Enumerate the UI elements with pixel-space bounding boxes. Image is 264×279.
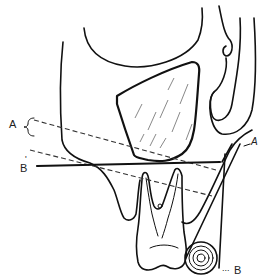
dashed-line-a-lower [30, 150, 212, 196]
right-wavy-contour [219, 6, 232, 56]
tooth-outline [137, 169, 187, 270]
sinus-curve [84, 8, 202, 67]
leader-a-right [244, 144, 250, 146]
bracket-a [24, 118, 34, 136]
label-a-right: A [251, 137, 258, 147]
label-b-prime-mark: ' [25, 155, 27, 164]
bone-right-contour [182, 130, 252, 224]
root-canal-left [146, 178, 158, 236]
label-b-lower: B [234, 265, 241, 276]
crown-inner [150, 245, 178, 248]
label-b-prime: B [20, 163, 27, 174]
right-outer-contour [210, 18, 255, 134]
cone-circles [185, 242, 217, 274]
hatching [135, 78, 192, 148]
diagonal-line-inner [222, 144, 232, 162]
label-a-left: A [9, 119, 16, 130]
dental-diagram [0, 0, 264, 279]
label-b-lower-leader: ... [222, 264, 230, 273]
